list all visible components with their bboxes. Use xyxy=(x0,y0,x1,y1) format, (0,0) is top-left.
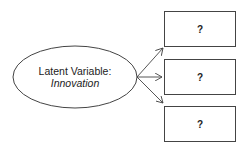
latent-variable-name: Innovation xyxy=(25,77,125,89)
arrow-to-indicator-3 xyxy=(137,77,163,103)
latent-variable-title: Latent Variable: xyxy=(25,65,125,77)
indicator-label: ? xyxy=(197,72,203,83)
indicator-box-2: ? xyxy=(164,59,236,95)
arrow-to-indicator-1 xyxy=(137,48,163,77)
indicator-label: ? xyxy=(197,119,203,130)
indicator-box-3: ? xyxy=(164,106,236,142)
indicator-box-1: ? xyxy=(164,11,236,47)
latent-variable-label: Latent Variable: Innovation xyxy=(25,65,125,89)
indicator-label: ? xyxy=(197,24,203,35)
